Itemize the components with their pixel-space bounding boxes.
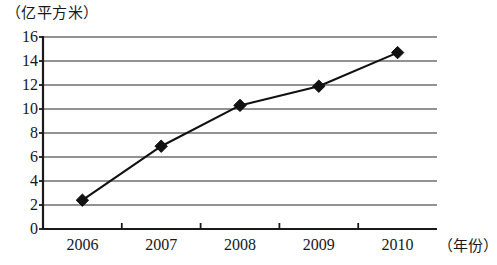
y-tick-label: 16 [8, 29, 38, 45]
data-point-marker [155, 140, 167, 152]
x-axis-unit-label: （年份） [438, 237, 497, 255]
data-series-line [82, 53, 397, 201]
y-axis-tick-labels: 1614121086420 [6, 0, 38, 265]
chart-plot-area [0, 0, 497, 265]
y-tick-label: 12 [8, 77, 38, 93]
y-tick-label: 0 [8, 221, 38, 237]
y-tick-label: 6 [8, 149, 38, 165]
x-tick-label: 2009 [279, 236, 358, 254]
x-tick-label: 2010 [358, 236, 437, 254]
y-tick-label: 8 [8, 125, 38, 141]
x-tick-label: 2006 [43, 236, 122, 254]
y-tick-label: 4 [8, 173, 38, 189]
x-axis-tick-labels: 20062007200820092010 [43, 236, 437, 262]
data-point-marker [391, 46, 403, 58]
y-tick-label: 10 [8, 101, 38, 117]
line-chart-figure: （亿平方米） 1614121086420 2006200720082009201… [0, 0, 497, 265]
horizontal-gridlines [43, 37, 437, 205]
y-tick-label: 14 [8, 53, 38, 69]
x-tick-label: 2007 [122, 236, 201, 254]
series-polyline [82, 53, 397, 201]
y-tick-label: 2 [8, 197, 38, 213]
data-point-marker [313, 80, 325, 92]
x-tick-label: 2008 [201, 236, 280, 254]
